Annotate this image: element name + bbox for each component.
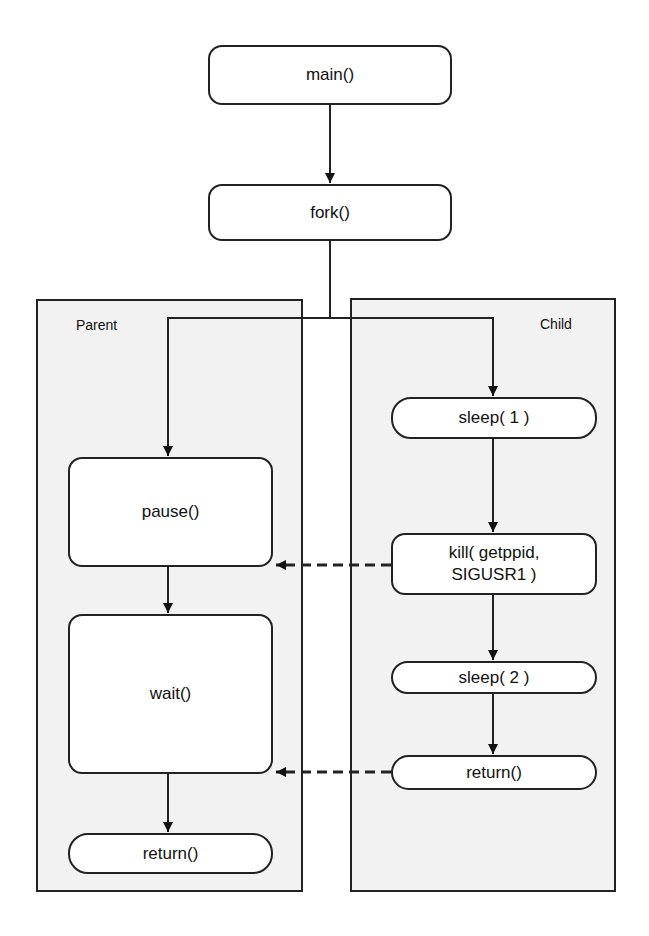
node-main-label: main() (306, 64, 354, 86)
node-fork-label: fork() (310, 202, 350, 224)
node-child-return: return() (391, 755, 597, 790)
node-parent-pause-label: pause() (142, 501, 200, 523)
node-parent-return: return() (68, 833, 273, 874)
node-parent-return-label: return() (143, 843, 199, 865)
node-child-return-label: return() (466, 762, 522, 784)
child-panel: Child (350, 298, 616, 892)
node-fork: fork() (208, 184, 452, 241)
node-parent-wait-label: wait() (150, 683, 192, 705)
parent-panel: Parent (36, 299, 303, 892)
node-child-sleep1: sleep( 1 ) (391, 397, 597, 439)
child-panel-label: Child (540, 316, 572, 332)
parent-panel-label: Parent (76, 317, 117, 333)
node-child-kill-label-line1: kill( getppid, (449, 542, 540, 564)
node-parent-pause: pause() (68, 457, 273, 567)
node-main: main() (208, 45, 452, 105)
node-child-kill: kill( getppid, SIGUSR1 ) (391, 533, 597, 595)
node-parent-wait: wait() (68, 614, 273, 774)
node-child-sleep1-label: sleep( 1 ) (459, 407, 530, 429)
node-child-kill-label-line2: SIGUSR1 ) (451, 564, 536, 586)
node-child-sleep2-label: sleep( 2 ) (459, 667, 530, 689)
node-child-sleep2: sleep( 2 ) (391, 661, 597, 694)
